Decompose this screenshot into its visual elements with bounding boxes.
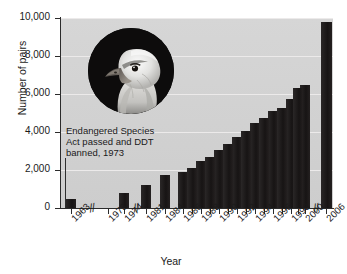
- bar-interval-3: [241, 131, 251, 208]
- annotation-line-1: Endangered Species: [66, 125, 154, 136]
- annotation-line-2: Act passed and DDT: [66, 136, 154, 147]
- y-tick-label: 6,000: [4, 89, 50, 97]
- annotation-leader-line: [65, 158, 66, 208]
- bar-interval-2: [223, 144, 233, 208]
- y-axis-tick-labels: 10,0008,0006,0004,0002,0000: [4, 0, 50, 274]
- x-axis-title: Year: [0, 255, 342, 267]
- gridline: [61, 18, 333, 19]
- bar-interval-6: [293, 88, 303, 208]
- y-tick-label: 2,000: [4, 165, 50, 173]
- y-tick-label: 10,000: [4, 13, 50, 21]
- y-tick-mark: [55, 208, 60, 209]
- bar-1981: [141, 185, 151, 208]
- bar-2006: [321, 22, 332, 208]
- y-tick-mark: [55, 56, 60, 57]
- y-tick-mark: [55, 170, 60, 171]
- annotation-line-3: banned, 1973: [66, 147, 154, 158]
- bar-interval-4: [259, 118, 269, 208]
- y-tick-label: 8,000: [4, 51, 50, 59]
- annotation-text: Endangered Species Act passed and DDT ba…: [66, 125, 154, 159]
- plot-area: Endangered Species Act passed and DDT ba…: [61, 18, 333, 208]
- y-tick-mark: [55, 18, 60, 19]
- y-tick-label: 4,000: [4, 127, 50, 135]
- y-tick-mark: [55, 132, 60, 133]
- y-tick-label: 0: [4, 203, 50, 211]
- bald-eagle-photo: [88, 28, 174, 114]
- y-tick-mark: [55, 94, 60, 95]
- bar-1963: [66, 199, 76, 208]
- bar-interval-5: [277, 108, 287, 208]
